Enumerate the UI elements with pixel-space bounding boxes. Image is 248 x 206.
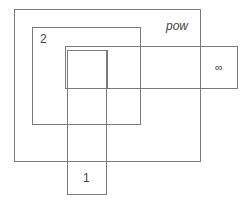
- label-infinity: ∞: [215, 62, 223, 73]
- label-two: 2: [40, 33, 47, 45]
- label-pow: pow: [166, 20, 188, 32]
- label-one: 1: [83, 172, 90, 184]
